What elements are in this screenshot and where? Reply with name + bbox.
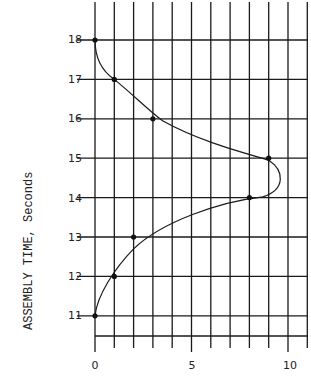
- x-tick-10: 10: [275, 359, 305, 372]
- fit-curve: [95, 40, 280, 316]
- y-tick-16: 16: [52, 112, 82, 125]
- y-tick-13: 13: [52, 231, 82, 244]
- y-tick-11: 11: [52, 309, 82, 322]
- y-tick-18: 18: [52, 33, 82, 46]
- y-tick-12: 12: [52, 270, 82, 283]
- grid-lines: [77, 2, 307, 352]
- x-tick-5: 5: [177, 359, 207, 372]
- y-tick-15: 15: [52, 152, 82, 165]
- y-tick-17: 17: [52, 73, 82, 86]
- x-tick-0: 0: [80, 359, 110, 372]
- y-tick-14: 14: [52, 192, 82, 205]
- y-axis-label: ASSEMBLY TIME, Seconds: [22, 172, 36, 330]
- chart-plot: [0, 0, 311, 384]
